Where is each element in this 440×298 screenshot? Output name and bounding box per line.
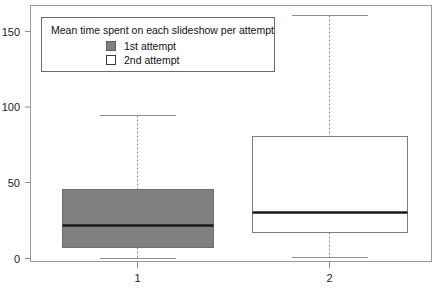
y-tick-label-100: 100 xyxy=(2,101,20,113)
legend-swatch-1st-attempt xyxy=(107,42,116,51)
y-tick-label-50: 50 xyxy=(8,177,20,189)
box2-body xyxy=(253,137,408,233)
y-axis: 0 50 100 150 xyxy=(2,26,31,265)
chart-screen: 0 50 100 150 1 2 xyxy=(0,0,440,298)
legend: Mean time spent on each slideshow per at… xyxy=(42,18,275,72)
box1-body xyxy=(63,190,214,248)
x-axis: 1 2 xyxy=(134,262,332,285)
y-tick-label-150: 150 xyxy=(2,26,20,38)
legend-label-1st-attempt: 1st attempt xyxy=(124,40,176,52)
legend-title: Mean time spent on each slideshow per at… xyxy=(51,24,274,36)
boxplot-figure: 0 50 100 150 1 2 xyxy=(0,0,440,298)
x-tick-label-1: 1 xyxy=(134,272,140,284)
x-tick-label-2: 2 xyxy=(326,272,332,284)
legend-swatch-2nd-attempt xyxy=(107,56,116,65)
legend-label-2nd-attempt: 2nd attempt xyxy=(124,54,180,66)
y-tick-label-0: 0 xyxy=(14,253,20,265)
